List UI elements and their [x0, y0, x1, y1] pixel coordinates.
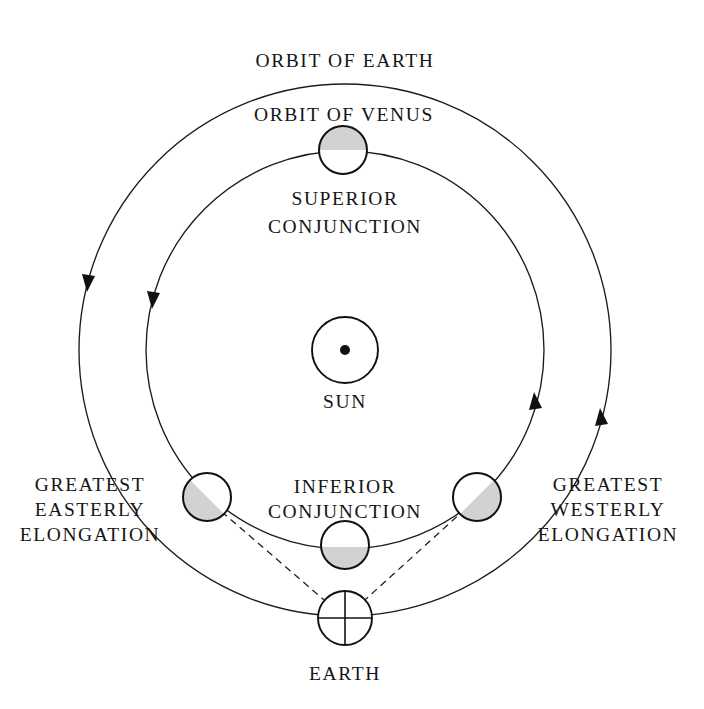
label-superior-conjunction-line1: SUPERIOR: [291, 188, 398, 209]
label-greatest-westerly-line2: WESTERLY: [551, 499, 666, 520]
venus-orbit-arrow-right-icon: [529, 392, 542, 410]
venus-inferior-conjunction: [321, 521, 369, 569]
label-earth: EARTH: [309, 663, 381, 684]
label-sun: SUN: [323, 391, 367, 412]
venus-greatest-westerly-elongation: [453, 473, 501, 521]
venus-inferior-lit-half: [321, 521, 369, 547]
label-inferior-conjunction-line1: INFERIOR: [294, 476, 397, 497]
venus-superior-dark-half: [319, 126, 367, 150]
label-greatest-westerly-line1: GREATEST: [553, 474, 663, 495]
earth-body: [318, 591, 372, 645]
earth-orbit-arrow-left-icon: [82, 274, 95, 292]
venus-orbit-diagram: ORBIT OF EARTH ORBIT OF VENUS SUPERIOR C…: [0, 0, 704, 709]
venus-superior-lit-half: [319, 150, 367, 174]
earth-orbit-arrow-right-icon: [595, 408, 608, 426]
venus-greatest-easterly-elongation: [183, 473, 231, 521]
label-superior-conjunction-line2: CONJUNCTION: [268, 216, 422, 237]
label-greatest-westerly-line3: ELONGATION: [538, 524, 679, 545]
sun-center-dot-icon: [340, 345, 350, 355]
sun-body: [312, 317, 378, 383]
label-greatest-easterly-line1: GREATEST: [35, 474, 145, 495]
venus-superior-conjunction: [319, 126, 367, 174]
label-orbit-of-venus: ORBIT OF VENUS: [254, 104, 434, 125]
label-greatest-easterly-line3: ELONGATION: [20, 524, 161, 545]
orbit-diagram-root: ORBIT OF EARTH ORBIT OF VENUS SUPERIOR C…: [0, 0, 704, 709]
label-greatest-easterly-line2: EASTERLY: [35, 499, 146, 520]
label-orbit-of-earth: ORBIT OF EARTH: [255, 50, 434, 71]
venus-inferior-dark-half: [321, 547, 369, 569]
venus-orbit-arrow-left-icon: [147, 291, 160, 309]
label-inferior-conjunction-line2: CONJUNCTION: [268, 501, 422, 522]
